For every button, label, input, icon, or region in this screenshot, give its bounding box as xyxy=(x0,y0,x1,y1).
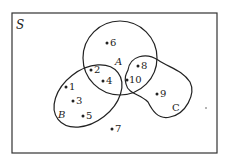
svg-text:3: 3 xyxy=(76,95,82,106)
set-b-label: B xyxy=(57,109,65,120)
svg-text:10: 10 xyxy=(129,74,142,85)
svg-text:9: 9 xyxy=(160,88,166,99)
element-4: 4 xyxy=(102,75,113,86)
element-5: 5 xyxy=(82,110,93,121)
set-c-blob xyxy=(125,56,192,118)
element-9: 9 xyxy=(156,88,167,99)
element-7: 7 xyxy=(111,123,122,134)
svg-text:5: 5 xyxy=(86,110,92,121)
element-3: 3 xyxy=(72,95,83,106)
svg-text:7: 7 xyxy=(115,123,121,134)
svg-text:4: 4 xyxy=(106,75,112,86)
svg-text:6: 6 xyxy=(110,37,116,48)
svg-text:1: 1 xyxy=(69,81,75,92)
stray-dot xyxy=(205,107,207,109)
set-a-label: A xyxy=(114,56,122,67)
element-8: 8 xyxy=(137,60,148,71)
universe-label: S xyxy=(16,18,24,32)
venn-diagram: S A B C 1 2 3 4 5 6 7 8 9 xyxy=(0,0,237,167)
element-6: 6 xyxy=(106,37,117,48)
svg-text:2: 2 xyxy=(94,64,100,75)
set-c-label: C xyxy=(172,102,180,113)
svg-text:8: 8 xyxy=(141,60,147,71)
element-10: 10 xyxy=(126,74,142,85)
element-1: 1 xyxy=(65,81,76,92)
